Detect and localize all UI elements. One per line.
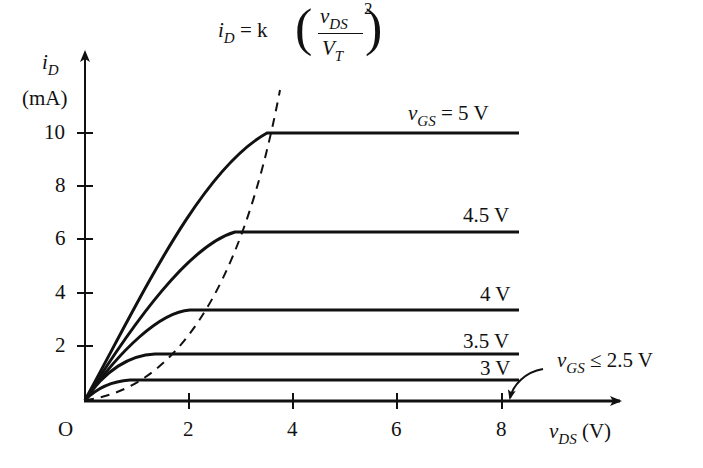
y-axis-unit: (mA)	[22, 88, 68, 109]
x-tick-8: 8	[496, 419, 507, 440]
curve-vgs-3.5	[85, 354, 519, 400]
curve-label-5v: vGS = 5 V	[408, 103, 489, 124]
x-axis-label: vDS (V)	[549, 421, 611, 442]
characteristic-curves	[85, 133, 519, 400]
curve-label-4.5v: 4.5 V	[463, 205, 509, 226]
boundary-equation: iD = k	[218, 20, 268, 41]
curve-label-4v: 4 V	[480, 284, 511, 305]
curve-vgs-3	[85, 380, 519, 400]
y-axis-label: iD	[42, 52, 59, 73]
y-tick-10: 10	[44, 122, 65, 143]
y-tick-6: 6	[55, 228, 66, 249]
eq-exponent: 2	[364, 0, 373, 17]
x-tick-2: 2	[183, 419, 194, 440]
chart-plot	[0, 0, 703, 468]
x-tick-4: 4	[287, 419, 298, 440]
eq-paren-left: (	[295, 2, 312, 54]
origin-label: O	[58, 419, 73, 440]
y-tick-4: 4	[55, 282, 66, 303]
curve-label-3v: 3 V	[480, 358, 511, 379]
eq-denominator: VT	[322, 38, 343, 59]
eq-numerator: vDS	[320, 6, 348, 27]
vgs-2.5-arrow	[510, 369, 543, 398]
curve-label-3.5v: 3.5 V	[463, 331, 509, 352]
curve-label-2.5v: vGS ≤ 2.5 V	[557, 350, 653, 371]
y-tick-8: 8	[55, 175, 66, 196]
curve-vgs-5	[85, 133, 519, 400]
y-tick-2: 2	[55, 335, 66, 356]
eq-fraction-bar	[318, 33, 363, 34]
x-tick-6: 6	[391, 419, 402, 440]
